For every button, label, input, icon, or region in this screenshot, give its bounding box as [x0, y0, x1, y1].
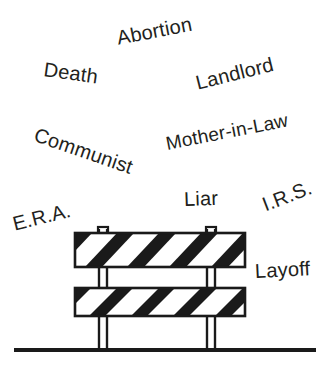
- label-communist: Communist: [32, 125, 136, 177]
- upper-board-outline: [75, 233, 245, 267]
- illustration-canvas: Abortion Death Landlord Communist Mother…: [0, 0, 326, 368]
- barricade-illustration: [0, 0, 326, 368]
- barricade-legs-front: [99, 267, 215, 350]
- label-liar: Liar: [184, 188, 219, 209]
- label-landlord: Landlord: [194, 54, 276, 93]
- label-abortion: Abortion: [115, 14, 194, 48]
- label-mother-in-law: Mother-in-Law: [164, 110, 289, 152]
- label-irs: I.R.S.: [259, 177, 314, 214]
- lower-board-outline: [75, 288, 245, 316]
- barricade-legs: [99, 229, 215, 350]
- leg-top-tabs: [98, 227, 216, 234]
- label-death: Death: [43, 59, 100, 86]
- label-era: E.R.A.: [11, 200, 73, 234]
- label-layoff: Layoff: [254, 258, 310, 281]
- lower-board: [47, 288, 259, 316]
- upper-board: [43, 233, 260, 267]
